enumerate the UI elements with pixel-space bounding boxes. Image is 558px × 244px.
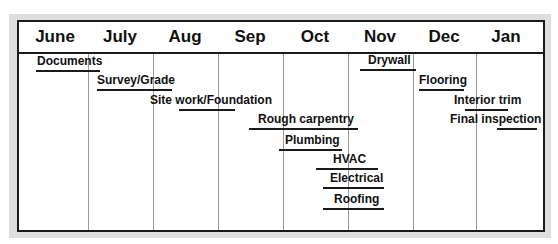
month-divider (218, 54, 219, 230)
month-label-june: June (23, 27, 87, 47)
task-bar (323, 208, 384, 210)
task-bar (465, 109, 508, 111)
task-label: Drywall (368, 53, 411, 67)
month-divider (476, 54, 477, 230)
task-bar (419, 89, 464, 91)
task-bar (179, 109, 235, 111)
task-label: HVAC (333, 152, 366, 166)
task-label: Final inspection (450, 112, 541, 126)
gantt-chart-frame: JuneJulyAugSepOctNovDecJan DocumentsSurv… (17, 20, 545, 232)
month-label-dec: Dec (412, 27, 476, 47)
task-label: Plumbing (285, 133, 340, 147)
task-label: Documents (37, 54, 102, 68)
task-label: Flooring (419, 73, 467, 87)
task-bar (97, 89, 172, 91)
month-label-sep: Sep (218, 27, 282, 47)
month-label-july: July (88, 27, 152, 47)
task-bar (279, 149, 342, 151)
task-label: Electrical (330, 171, 383, 185)
task-bar (316, 168, 378, 170)
month-divider (413, 54, 414, 230)
task-bar (497, 128, 537, 130)
task-bar (36, 70, 100, 72)
month-label-aug: Aug (153, 27, 217, 47)
task-bar (249, 128, 358, 130)
task-label: Survey/Grade (97, 73, 175, 87)
task-bar (360, 69, 416, 71)
task-label: Rough carpentry (258, 112, 354, 126)
task-label: Roofing (334, 192, 379, 206)
task-bar (323, 187, 384, 189)
month-label-oct: Oct (283, 27, 347, 47)
task-label: Site work/Foundation (150, 93, 272, 107)
month-label-nov: Nov (348, 27, 412, 47)
month-divider (283, 54, 284, 230)
month-divider (88, 54, 89, 230)
task-label: Interior trim (454, 93, 521, 107)
month-label-jan: Jan (474, 27, 538, 47)
